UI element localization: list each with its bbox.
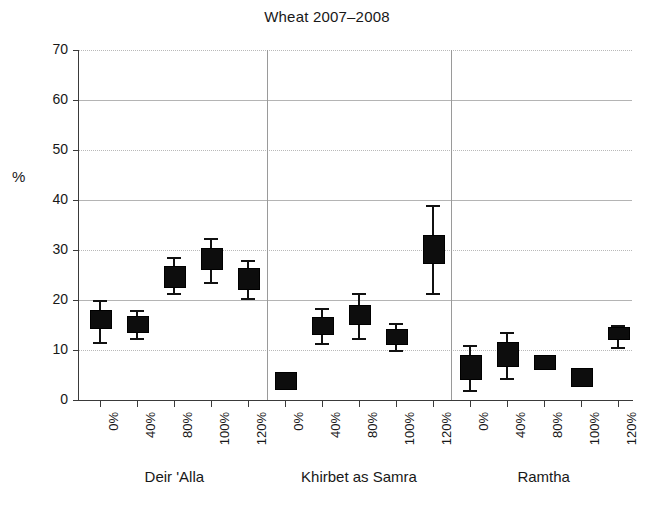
x-tick-label: 80% xyxy=(180,412,195,438)
y-tick-mark xyxy=(73,250,78,251)
whisker-cap-lower xyxy=(241,298,255,300)
box-iqr xyxy=(201,248,223,270)
y-tick-mark xyxy=(73,150,78,151)
whisker-cap-upper xyxy=(204,238,218,240)
x-tick-mark xyxy=(137,401,138,407)
boxplot-box xyxy=(497,50,517,400)
x-tick-label: 40% xyxy=(328,412,343,438)
whisker-cap-lower xyxy=(167,293,181,295)
x-tick-mark xyxy=(433,401,434,407)
boxplot-box xyxy=(275,50,295,400)
y-tick-label: 60 xyxy=(28,91,68,107)
box-iqr xyxy=(460,355,482,380)
boxplot-box xyxy=(90,50,110,400)
boxplot-box xyxy=(238,50,258,400)
box-iqr xyxy=(238,268,260,290)
boxplot-box xyxy=(534,50,554,400)
box-iqr xyxy=(127,316,149,333)
x-tick-label: 100% xyxy=(402,412,417,445)
whisker-cap-lower xyxy=(130,338,144,340)
whisker-cap-upper xyxy=(426,205,440,207)
group-label: Ramtha xyxy=(454,468,634,485)
whisker-cap-upper xyxy=(130,310,144,312)
box-iqr xyxy=(386,329,408,345)
y-tick-label: 40 xyxy=(28,191,68,207)
x-tick-label: 120% xyxy=(624,412,639,445)
x-tick-label: 80% xyxy=(365,412,380,438)
whisker-cap-lower xyxy=(389,350,403,352)
y-axis-title: % xyxy=(12,168,25,185)
boxplot-box xyxy=(423,50,443,400)
group-label: Khirbet as Samra xyxy=(269,468,449,485)
chart-figure: Wheat 2007–2008 % 0%40%80%100%120%0%40%8… xyxy=(0,0,654,515)
x-tick-label: 40% xyxy=(143,412,158,438)
whisker-cap-upper xyxy=(241,260,255,262)
box-iqr xyxy=(275,372,297,390)
box-iqr xyxy=(497,342,519,367)
whisker-cap-lower xyxy=(204,282,218,284)
whisker-lower xyxy=(432,262,434,293)
y-tick-label: 10 xyxy=(28,341,68,357)
y-tick-label: 70 xyxy=(28,41,68,57)
whisker-cap-upper xyxy=(167,257,181,259)
x-tick-mark xyxy=(544,401,545,407)
group-separator xyxy=(451,50,452,400)
x-tick-mark xyxy=(581,401,582,407)
x-axis-line xyxy=(78,400,633,401)
boxplot-box xyxy=(312,50,332,400)
box-iqr xyxy=(608,327,630,340)
x-tick-label: 80% xyxy=(550,412,565,438)
x-tick-label: 100% xyxy=(587,412,602,445)
x-tick-label: 0% xyxy=(291,412,306,431)
x-tick-mark xyxy=(174,401,175,407)
y-tick-label: 50 xyxy=(28,141,68,157)
x-tick-mark xyxy=(470,401,471,407)
x-tick-mark xyxy=(285,401,286,407)
x-tick-mark xyxy=(396,401,397,407)
whisker-lower xyxy=(358,323,360,338)
whisker-cap-lower xyxy=(611,347,625,349)
y-tick-mark xyxy=(73,200,78,201)
x-tick-mark xyxy=(100,401,101,407)
boxplot-box xyxy=(164,50,184,400)
boxplot-box xyxy=(460,50,480,400)
box-iqr xyxy=(312,317,334,335)
whisker-lower xyxy=(210,268,212,282)
box-iqr xyxy=(90,310,112,329)
boxplot-box xyxy=(571,50,591,400)
boxplot-box xyxy=(608,50,628,400)
whisker-cap-upper xyxy=(315,308,329,310)
y-tick-mark xyxy=(73,100,78,101)
whisker-cap-upper xyxy=(389,323,403,325)
boxplot-box xyxy=(201,50,221,400)
y-tick-mark xyxy=(73,400,78,401)
group-separator xyxy=(267,50,268,400)
box-iqr xyxy=(534,355,556,370)
whisker-cap-lower xyxy=(500,378,514,380)
x-tick-label: 100% xyxy=(217,412,232,445)
x-tick-mark xyxy=(618,401,619,407)
x-tick-mark xyxy=(248,401,249,407)
box-iqr xyxy=(164,266,186,288)
whisker-cap-lower xyxy=(352,338,366,340)
x-tick-label: 120% xyxy=(254,412,269,445)
boxplot-box xyxy=(127,50,147,400)
y-tick-label: 30 xyxy=(28,241,68,257)
boxplot-box xyxy=(386,50,406,400)
y-tick-mark xyxy=(73,350,78,351)
chart-title: Wheat 2007–2008 xyxy=(0,8,654,25)
whisker-cap-lower xyxy=(93,342,107,344)
x-tick-label: 0% xyxy=(106,412,121,431)
plot-area: 0%40%80%100%120%0%40%80%100%120%0%40%80%… xyxy=(78,50,632,400)
whisker-cap-upper xyxy=(93,300,107,302)
x-tick-label: 120% xyxy=(439,412,454,445)
y-tick-mark xyxy=(73,300,78,301)
whisker-cap-upper xyxy=(352,293,366,295)
y-tick-label: 0 xyxy=(28,391,68,407)
x-tick-mark xyxy=(507,401,508,407)
whisker-cap-lower xyxy=(426,293,440,295)
x-tick-label: 0% xyxy=(476,412,491,431)
boxplot-box xyxy=(349,50,369,400)
whisker-upper xyxy=(432,205,434,235)
x-tick-label: 40% xyxy=(513,412,528,438)
